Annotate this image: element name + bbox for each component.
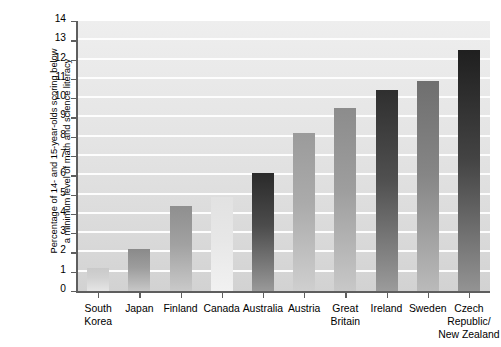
bar-chart: Percentage of 14- and 15-year-olds scori… xyxy=(0,0,501,347)
bar xyxy=(252,173,274,291)
x-axis-tick-mark xyxy=(469,293,470,298)
plot-area xyxy=(78,21,490,291)
bar xyxy=(128,249,150,291)
x-axis-category-label: Czech Republic/ New Zealand xyxy=(409,302,501,342)
bar xyxy=(170,206,192,291)
y-axis-tick-label: 7 xyxy=(60,149,66,159)
gridline xyxy=(78,38,490,40)
x-axis-tick-mark xyxy=(304,293,305,298)
y-axis-tick-label: 8 xyxy=(60,130,66,140)
bar xyxy=(87,268,109,291)
gridline xyxy=(78,58,490,60)
x-axis-tick-mark xyxy=(139,293,140,298)
bar xyxy=(293,133,315,291)
y-axis-tick-label: 6 xyxy=(60,168,66,178)
x-axis-tick-mark xyxy=(98,293,99,298)
y-axis-tick-label: 11 xyxy=(55,72,66,82)
bar xyxy=(458,50,480,291)
y-axis-tick-label: 14 xyxy=(55,14,66,24)
x-axis-tick-mark xyxy=(222,293,223,298)
y-axis-tick-label: 13 xyxy=(55,33,66,43)
y-axis-tick-label: 5 xyxy=(60,188,66,198)
x-axis-tick-mark xyxy=(345,293,346,298)
y-axis-tick-label: 3 xyxy=(60,226,66,236)
x-axis-tick-mark xyxy=(387,293,388,298)
bar xyxy=(211,197,233,292)
y-axis-tick-label: 1 xyxy=(60,265,66,275)
y-axis-tick-label: 10 xyxy=(55,91,66,101)
y-axis-tick-label: 12 xyxy=(55,53,66,63)
bar xyxy=(376,90,398,291)
y-axis-tick-label: 2 xyxy=(60,245,66,255)
bar xyxy=(417,81,439,291)
gridline xyxy=(78,77,490,79)
x-axis-labels: South KoreaJapanFinlandCanadaAustraliaAu… xyxy=(78,293,490,347)
y-axis-ticks: 01234567891011121314 xyxy=(0,0,76,347)
y-axis-tick-label: 4 xyxy=(60,207,66,217)
x-axis-tick-mark xyxy=(263,293,264,298)
y-axis-tick-label: 9 xyxy=(60,110,66,120)
y-axis-tick-label: 0 xyxy=(60,284,66,294)
x-axis-tick-mark xyxy=(181,293,182,298)
x-axis-tick-mark xyxy=(428,293,429,298)
bar xyxy=(334,108,356,291)
